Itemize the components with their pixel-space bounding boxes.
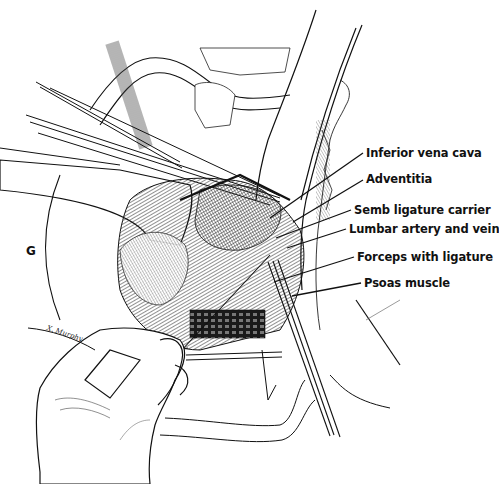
lower-tubes: [160, 350, 390, 442]
surgical-field: [118, 175, 304, 350]
label-forceps-with-ligature: Forceps with ligature: [357, 250, 493, 264]
label-lumbar-artery-and-vein: Lumbar artery and vein: [349, 222, 499, 236]
label-psoas-muscle: Psoas muscle: [364, 276, 450, 290]
upper-tissue: [195, 48, 290, 128]
label-inferior-vena-cava: Inferior vena cava: [366, 146, 482, 160]
hand: [36, 328, 188, 484]
panel-letter: G: [26, 244, 36, 258]
label-adventitia: Adventitia: [366, 172, 432, 186]
label-semb-ligature-carrier: Semb ligature carrier: [354, 203, 491, 217]
